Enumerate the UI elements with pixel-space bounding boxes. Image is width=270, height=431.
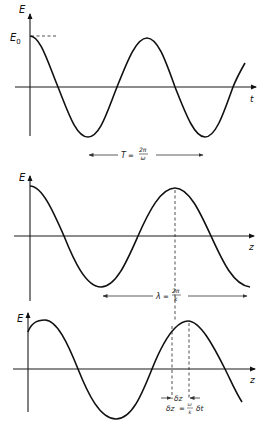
amplitude-label: E0 [10,32,21,46]
y-axis-label: E [17,313,24,324]
x-axis-label: z [249,375,255,385]
wavelength-formula: λ = 2π k [155,287,181,302]
x-axis-label: z [248,242,254,252]
svg-text:2π: 2π [172,287,180,294]
svg-text:T: T [121,151,127,160]
svg-text:λ: λ [155,292,161,301]
period-formula: T = 2π ω [121,146,148,161]
svg-text:=: = [179,405,185,413]
svg-text:=: = [128,152,134,160]
wave-diagram: E t E0 T = 2π ω E z λ = 2π k [0,0,270,431]
panel-shifted-wave: E z δz δz = ω k δt [13,313,255,419]
y-axis-label: E [19,172,26,183]
svg-text:ω: ω [141,154,146,161]
svg-text:k: k [174,295,178,302]
svg-text:ω: ω [188,401,192,407]
panel-time-domain: E t E0 T = 2π ω [10,4,256,161]
svg-text:k: k [189,409,193,415]
svg-text:2π: 2π [139,146,147,153]
x-axis-label: t [250,94,254,104]
svg-text:=: = [163,293,169,301]
svg-text:δt: δt [196,404,205,413]
shift-formula: δz = ω k δt [166,401,205,415]
y-axis-label: E [19,4,26,15]
svg-text:δz: δz [166,404,176,413]
shift-marker-label: δz [174,394,184,403]
panel-space-domain: E z λ = 2π k [14,172,254,322]
